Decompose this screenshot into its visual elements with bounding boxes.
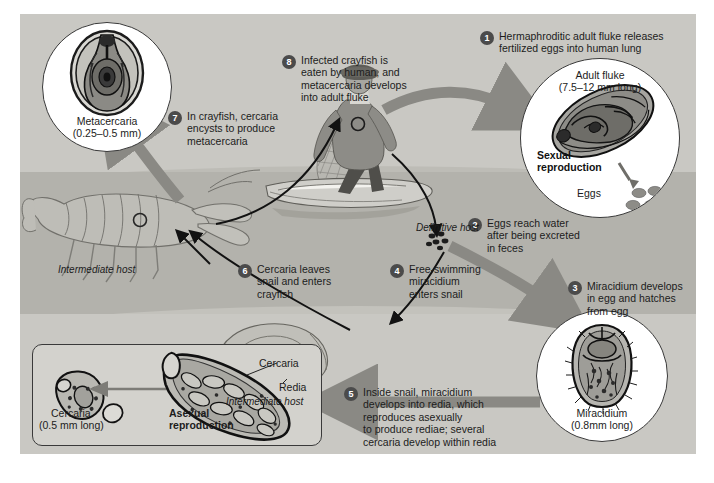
step-4: 4 Free-swimming miracidium enters snail: [390, 263, 520, 300]
step-8: 8 Infected crayfish is eaten by human, a…: [282, 54, 442, 104]
adult-fluke-size-label: (7.5–12 mm long): [521, 81, 679, 93]
metacercaria-inset-circle: Metacercaria (0.25–0.5 mm): [42, 22, 172, 152]
step-6: 6 Cercaria leaves snail and enters crayf…: [238, 263, 378, 300]
egg-cluster-illustration: [426, 232, 448, 251]
life-cycle-diagram: Metacercaria (0.25–0.5 mm): [0, 0, 714, 483]
step-3-text: Miracidium develops in egg and hatches f…: [587, 280, 683, 317]
step-5: 5 Inside snail, miracidium develops into…: [344, 386, 544, 448]
step-6-bullet: 6: [238, 264, 252, 278]
cercaria-name-label: Cercaria: [51, 407, 91, 419]
step-7: 7 In crayfish, cercaria encysts to produ…: [168, 110, 318, 147]
eggs-label: Eggs: [577, 187, 601, 199]
step-6-text: Cercaria leaves snail and enters crayfis…: [257, 263, 331, 300]
intermediate-host-crayfish-label: Intermediate host: [58, 264, 135, 275]
step-1-bullet: 1: [480, 31, 494, 45]
sexual-reproduction-label: Sexual reproduction: [537, 149, 602, 173]
callout-redia-label: Redia: [279, 381, 306, 393]
metacercaria-name-label: Metacercaria: [43, 115, 171, 127]
arrow-crayfish-pointer: [182, 236, 210, 264]
step-3-bullet: 3: [568, 281, 582, 295]
step-8-text: Infected crayfish is eaten by human, and…: [301, 54, 407, 104]
step-5-text: Inside snail, miracidium develops into r…: [363, 386, 496, 448]
asexual-reproduction-label: Asexual reproduction: [169, 407, 234, 431]
miracidium-inset-circle: Miracidium (0.8mm long): [536, 310, 668, 442]
step-1: 1 Hermaphroditic adult fluke releases fe…: [480, 30, 696, 55]
callout-cercaria-label: Cercaria: [259, 357, 299, 369]
asexual-reproduction-box: Cercaria (0.5 mm long) Asexual reproduct…: [32, 344, 322, 446]
miracidium-size-label: (0.8mm long): [537, 419, 667, 431]
metacercaria-size-label: (0.25–0.5 mm): [43, 127, 171, 139]
miracidium-name-label: Miracidium: [537, 407, 667, 419]
step-7-text: In crayfish, cercaria encysts to produce…: [187, 110, 278, 147]
step-8-bullet: 8: [282, 55, 296, 69]
adult-fluke-name-label: Adult fluke: [521, 69, 679, 81]
step-2: 2 Eggs reach water after being excreted …: [468, 217, 618, 254]
intermediate-host-snail-label: Intermediate host: [226, 396, 303, 407]
step-2-text: Eggs reach water after being excreted in…: [487, 217, 580, 254]
step-7-bullet: 7: [168, 111, 182, 125]
cercaria-size-label: (0.5 mm long): [39, 419, 104, 431]
definitive-host-label: Definitive host: [416, 222, 479, 233]
adult-fluke-inset-circle: Adult fluke (7.5–12 mm long) Sexual repr…: [520, 58, 680, 218]
step-5-bullet: 5: [344, 387, 358, 401]
step-4-text: Free-swimming miracidium enters snail: [409, 263, 481, 300]
step-3: 3 Miracidium develops in egg and hatches…: [568, 280, 696, 317]
step-1-text: Hermaphroditic adult fluke releases fert…: [499, 30, 664, 55]
step-4-bullet: 4: [390, 264, 404, 278]
diagram-panel: Metacercaria (0.25–0.5 mm): [20, 14, 696, 454]
